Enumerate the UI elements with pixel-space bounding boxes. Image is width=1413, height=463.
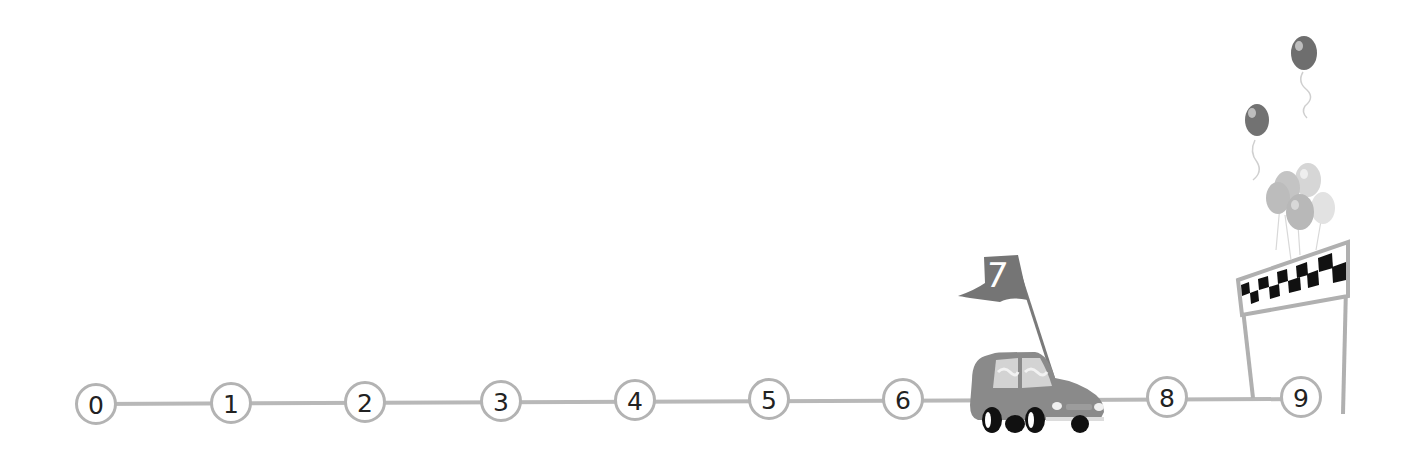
node-9: 9 [1280,376,1322,418]
balloon-icon [1245,104,1269,136]
number-line-diagram: 7 0 1 2 3 4 5 6 8 9 [0,0,1413,463]
balloon-icon [1291,36,1317,70]
node-4: 4 [614,379,656,421]
node-label: 9 [1293,386,1309,411]
number-line-track [96,399,1302,404]
node-0: 0 [75,383,117,425]
node-label: 8 [1159,386,1175,411]
node-3: 3 [480,380,522,422]
node-label: 3 [493,390,509,415]
node-6: 6 [882,378,924,420]
node-label: 2 [357,391,373,416]
node-label: 1 [223,392,239,417]
node-label: 6 [895,388,911,413]
node-label: 0 [88,393,104,418]
flag-number-label: 7 [984,255,1010,295]
node-label: 4 [627,389,643,414]
node-5: 5 [748,378,790,420]
node-8: 8 [1146,376,1188,418]
node-label: 5 [761,388,777,413]
car-marker [958,255,1104,433]
balloons-decoration [1245,36,1335,260]
node-1: 1 [210,382,252,424]
node-2: 2 [344,381,386,423]
